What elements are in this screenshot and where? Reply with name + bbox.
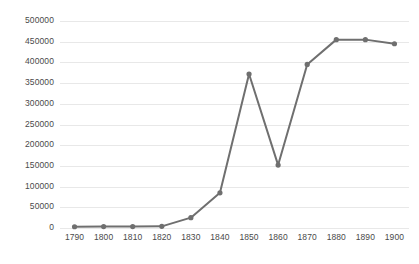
data-point-marker [305, 62, 310, 67]
plot-area [60, 21, 409, 228]
y-tick-label: 100000 [25, 182, 54, 191]
x-axis-tick-labels: 1790180018101820183018401850186018701880… [60, 233, 409, 253]
y-tick-label: 450000 [25, 37, 54, 46]
data-point-marker [217, 190, 222, 195]
data-point-marker [246, 71, 251, 76]
x-tick-label: 1840 [210, 233, 229, 242]
x-tick-label: 1830 [181, 233, 200, 242]
x-tick-label: 1810 [123, 233, 142, 242]
x-tick-label: 1800 [94, 233, 113, 242]
y-tick-label: 500000 [25, 16, 54, 25]
x-tick-label: 1900 [385, 233, 404, 242]
x-tick-label: 1860 [268, 233, 287, 242]
y-tick-label: 400000 [25, 57, 54, 66]
x-tick-label: 1880 [327, 233, 346, 242]
line-chart: 0500001000001500002000002500003000003500… [0, 0, 419, 264]
data-point-marker [101, 224, 106, 229]
y-tick-label: 0 [49, 223, 54, 232]
y-axis-tick-labels: 0500001000001500002000002500003000003500… [0, 21, 54, 228]
data-point-marker [159, 224, 164, 229]
data-point-marker [276, 162, 281, 167]
series-line-group [60, 21, 409, 228]
data-point-marker [188, 215, 193, 220]
x-tick-label: 1790 [65, 233, 84, 242]
y-tick-label: 150000 [25, 161, 54, 170]
data-point-marker [130, 224, 135, 229]
series-line [75, 40, 395, 227]
y-tick-label: 50000 [30, 202, 54, 211]
gridline-0 [60, 228, 409, 229]
x-tick-label: 1820 [152, 233, 171, 242]
x-tick-label: 1850 [239, 233, 258, 242]
y-tick-label: 350000 [25, 78, 54, 87]
x-tick-label: 1890 [356, 233, 375, 242]
data-point-marker [392, 41, 397, 46]
y-tick-label: 200000 [25, 140, 54, 149]
y-tick-label: 300000 [25, 99, 54, 108]
x-tick-label: 1870 [298, 233, 317, 242]
data-point-marker [363, 37, 368, 42]
data-point-marker [72, 224, 77, 229]
data-point-marker [334, 37, 339, 42]
y-tick-label: 250000 [25, 120, 54, 129]
